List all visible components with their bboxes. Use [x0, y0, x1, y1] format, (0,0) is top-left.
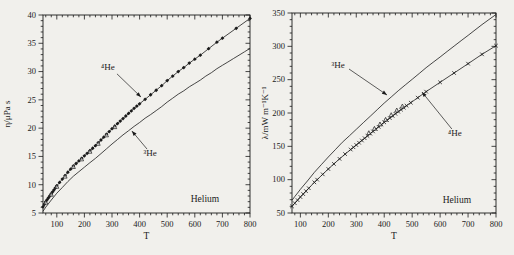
y-tick-label: 10 — [28, 180, 37, 190]
annotation-label: ³He — [332, 60, 345, 70]
annotation-He: ⁴He — [422, 92, 462, 138]
y-tick-label: 30 — [28, 66, 37, 76]
series-line — [292, 46, 496, 207]
y-tick-label: 50 — [277, 208, 286, 218]
annotation-arrow — [349, 69, 387, 95]
series-4He-data — [41, 16, 252, 208]
series-3He-correlation — [43, 48, 250, 211]
y-tick-label: 40 — [28, 10, 37, 20]
triangle-marker — [395, 108, 399, 112]
x-tick-label: 700 — [462, 219, 475, 229]
y-tick-label: 25 — [28, 95, 37, 105]
thermal-conductivity-chart: 1002003004005006007008005010015020025030… — [260, 8, 502, 241]
y-tick-label: 15 — [28, 151, 37, 161]
x-tick-label: 800 — [490, 219, 503, 229]
x-tick-label: 600 — [434, 219, 447, 229]
triangle-marker — [400, 104, 404, 108]
x-tick-label: 400 — [378, 219, 391, 229]
x-axis-label: T — [391, 231, 397, 241]
y-tick-label: 5 — [32, 208, 36, 218]
triangle-marker — [378, 122, 382, 126]
x-tick-label: 500 — [161, 219, 174, 229]
y-axis-label: λ/mW m⁻¹K⁻¹ — [260, 86, 270, 139]
x-tick-label: 300 — [350, 219, 363, 229]
series-line — [43, 18, 250, 206]
series-line — [292, 15, 496, 201]
triangle-marker — [384, 117, 388, 121]
annotation-He: ³He — [132, 131, 157, 158]
corner-label: Helium — [443, 195, 472, 205]
figure-canvas: 100200300400500600700800510152025303540T… — [0, 0, 514, 255]
y-tick-label: 100 — [272, 174, 285, 184]
series-4He-data-secondary — [367, 104, 405, 135]
plot-frame — [292, 13, 496, 213]
series-4He-data-secondary — [44, 125, 117, 204]
annotation-label: ⁴He — [448, 128, 462, 138]
x-tick-label: 200 — [78, 219, 91, 229]
annotation-He: ⁴He — [101, 62, 141, 97]
arrowhead — [382, 91, 387, 95]
plot-frame — [43, 15, 250, 213]
series-3He-correlation — [292, 15, 496, 201]
x-tick-label: 500 — [406, 219, 419, 229]
annotation-label: ⁴He — [101, 62, 115, 72]
y-tick-label: 35 — [28, 38, 37, 48]
helium-transport-figure: 100200300400500600700800510152025303540T… — [0, 0, 514, 255]
x-tick-label: 200 — [322, 219, 335, 229]
annotation-arrow — [117, 74, 141, 97]
y-tick-label: 300 — [272, 41, 285, 51]
x-tick-label: 100 — [50, 219, 63, 229]
x-tick-label: 300 — [106, 219, 119, 229]
x-tick-label: 800 — [244, 219, 257, 229]
triangle-marker — [372, 126, 376, 130]
x-axis-label: T — [144, 231, 150, 241]
corner-label: Helium — [191, 194, 220, 204]
y-tick-label: 20 — [28, 123, 37, 133]
y-tick-label: 350 — [272, 8, 285, 18]
x-tick-label: 400 — [133, 219, 146, 229]
triangle-marker — [367, 131, 371, 135]
series-line — [43, 48, 250, 211]
annotation-label: ³He — [143, 148, 156, 158]
y-tick-label: 200 — [272, 108, 285, 118]
y-tick-label: 250 — [272, 74, 285, 84]
y-tick-label: 150 — [272, 141, 285, 151]
y-axis-label: η/μPa s — [2, 100, 12, 127]
x-tick-label: 700 — [216, 219, 229, 229]
triangle-marker — [389, 113, 393, 117]
x-tick-label: 600 — [188, 219, 201, 229]
x-tick-label: 100 — [294, 219, 307, 229]
annotation-He: ³He — [332, 60, 388, 95]
x-axis: 100200300400500600700800 — [46, 15, 257, 229]
series-4He-data — [290, 44, 498, 208]
viscosity-chart: 100200300400500600700800510152025303540T… — [2, 10, 256, 241]
annotation-arrow — [422, 92, 452, 129]
